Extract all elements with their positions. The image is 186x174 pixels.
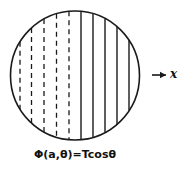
figure-root: x Φ(a,θ)=Tcosθ	[0, 0, 186, 174]
x-axis-label: x	[170, 67, 177, 81]
x-axis-arrow-icon	[152, 72, 166, 78]
figure-caption: Φ(a,θ)=Tcosθ	[0, 148, 150, 161]
chord-lines-group	[20, 11, 129, 139]
boundary-circle	[11, 11, 140, 140]
arrow-head	[160, 72, 166, 78]
